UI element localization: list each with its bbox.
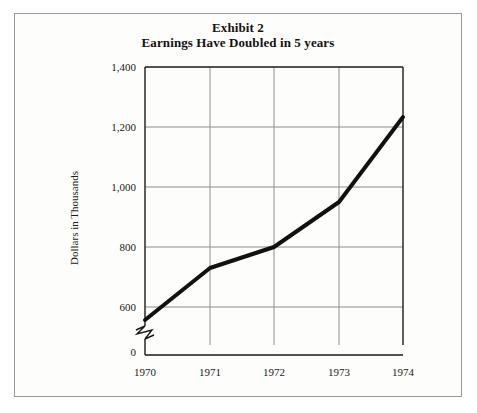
chart-plot — [0, 0, 477, 413]
vertical-gridlines — [210, 67, 339, 345]
axis-break-icon — [136, 326, 154, 339]
chart-page: Exhibit 2 Earnings Have Doubled in 5 yea… — [0, 0, 477, 413]
